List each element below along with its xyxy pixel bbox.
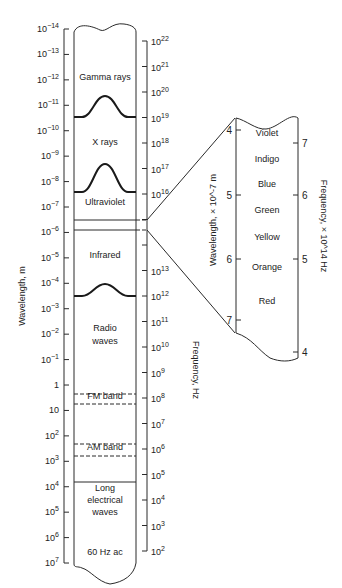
region-labels: Gamma raysX raysUltravioletInfraredRadio… — [79, 72, 131, 557]
frequency-ticks: 1022102110201019101810171016101310121011… — [142, 35, 169, 557]
tick-label: 10−1 — [41, 353, 59, 365]
tick-label: 103 — [45, 454, 59, 466]
tick-label: 10−13 — [37, 47, 59, 59]
region-label: Gamma rays — [79, 72, 131, 82]
region-label: waves — [91, 507, 118, 517]
tick-label: 10−2 — [41, 327, 59, 339]
visible-color-labels: VioletIndigoBlueGreenYellowOrangeRed — [252, 128, 282, 306]
tick-label: 107 — [45, 556, 59, 568]
tick-label: 1017 — [151, 163, 169, 175]
region-label: AM band — [87, 442, 123, 452]
tick-label: 103 — [151, 520, 165, 532]
tick-label: 107 — [151, 418, 165, 430]
tick-label: 105 — [151, 469, 165, 481]
tick-label: 104 — [151, 494, 165, 506]
tick-label: 102 — [45, 429, 59, 441]
color-label: Indigo — [255, 154, 280, 164]
tick-label: 5 — [226, 190, 232, 201]
color-label: Orange — [252, 262, 282, 272]
tick-label: 10−4 — [41, 276, 59, 288]
tick-label: 4 — [302, 347, 308, 358]
color-label: Violet — [256, 128, 279, 138]
region-label: FM band — [87, 391, 123, 401]
color-label: Yellow — [254, 232, 280, 242]
tick-label: 106 — [151, 443, 165, 455]
tick-label: 10−12 — [37, 73, 59, 85]
gamma-xray-boundary — [74, 96, 136, 117]
tick-label: 1018 — [151, 137, 169, 149]
tick-label: 10−9 — [41, 149, 59, 161]
region-label: 60 Hz ac — [87, 547, 123, 557]
tick-label: 7 — [226, 315, 232, 326]
tick-label: 7 — [302, 138, 308, 149]
tick-label: 102 — [151, 545, 165, 557]
region-label: Ultraviolet — [85, 197, 126, 207]
region-label: Infrared — [89, 250, 120, 260]
tick-label: 106 — [45, 531, 59, 543]
tick-label: 5 — [302, 254, 308, 265]
color-label: Blue — [258, 179, 276, 189]
inset-frequency-label: Frequency, × 10^14 Hz — [319, 180, 329, 273]
tick-label: 10−8 — [41, 175, 59, 187]
tick-label: 10−5 — [41, 251, 59, 263]
region-label: electrical — [87, 495, 123, 505]
tick-label: 10−10 — [37, 124, 59, 136]
tick-label: 10 — [49, 405, 59, 415]
region-label: X rays — [92, 137, 118, 147]
color-label: Red — [259, 296, 276, 306]
xray-uv-boundary — [74, 164, 136, 192]
tick-label: 104 — [45, 480, 59, 492]
inset-wavelength-label: Wavelength, × 10^-7 m — [208, 174, 218, 266]
tick-label: 1022 — [151, 35, 169, 47]
tick-label: 10−3 — [41, 302, 59, 314]
tick-label: 1013 — [151, 265, 169, 277]
inset-frequency-ticks: 7654 — [293, 138, 308, 358]
inset-wavelength-ticks: 4567 — [226, 125, 241, 326]
tick-label: 10−11 — [38, 98, 59, 110]
wavelength-axis-label: Wavelength, m — [17, 266, 27, 326]
tick-label: 105 — [45, 505, 59, 517]
tick-label: 1 — [54, 380, 59, 390]
em-spectrum-diagram: 10−1410−1310−1210−1110−1010−910−810−710−… — [0, 0, 342, 588]
ir-radio-boundary — [74, 284, 136, 296]
tick-label: 4 — [226, 125, 232, 136]
tick-label: 1010 — [151, 341, 169, 353]
frequency-axis-label: Frequency, Hz — [191, 341, 201, 399]
tick-label: 10−14 — [37, 22, 59, 34]
tick-label: 1011 — [151, 316, 168, 328]
tick-label: 1019 — [151, 112, 169, 124]
tick-label: 109 — [151, 367, 165, 379]
tick-label: 6 — [226, 254, 232, 265]
tick-label: 6 — [302, 190, 308, 201]
tick-label: 10−7 — [41, 200, 59, 212]
color-label: Green — [254, 205, 279, 215]
region-label: Long — [95, 483, 115, 493]
tick-label: 1012 — [151, 290, 169, 302]
tick-label: 1020 — [151, 86, 169, 98]
region-label: Radio — [93, 323, 117, 333]
region-label: waves — [91, 336, 118, 346]
tick-label: 108 — [151, 392, 165, 404]
tick-label: 1021 — [151, 61, 169, 73]
tick-label: 10−6 — [41, 225, 59, 237]
